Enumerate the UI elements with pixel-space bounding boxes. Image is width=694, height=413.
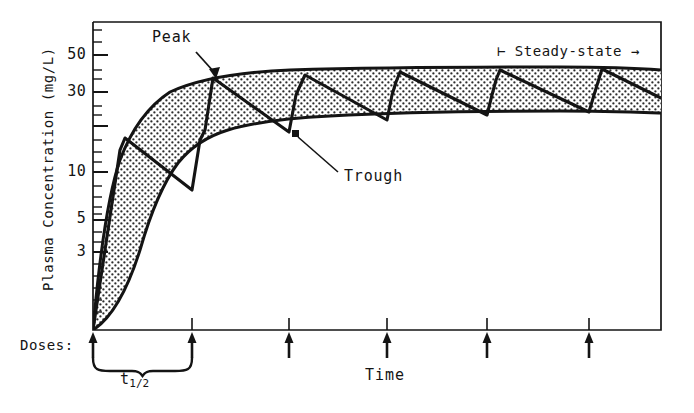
trough-annotation-label: Trough: [344, 169, 403, 184]
peak-leader-arrow: [196, 52, 220, 79]
trough-leader-line: [292, 130, 338, 172]
steady-state-annotation-label: ⊢ Steady-state →: [497, 44, 640, 58]
doses-axis-label: Doses:: [20, 338, 74, 352]
y-tick-label-50: 50: [46, 47, 86, 62]
dose-arrow-3: [285, 332, 294, 358]
dose-arrow-1: [89, 332, 98, 358]
y-tick-label-5: 5: [46, 211, 86, 226]
dose-arrows: [89, 332, 594, 358]
halflife-label: t1/2: [120, 372, 149, 389]
y-tick-label-3: 3: [46, 244, 86, 259]
dose-arrow-5: [483, 332, 492, 358]
peak-annotation-label: Peak: [152, 30, 191, 45]
figure-root: Plasma Concentration (mg/L) 50 30 10 5 3…: [0, 0, 694, 413]
x-axis-title: Time: [365, 368, 405, 383]
dose-arrow-4: [383, 332, 392, 358]
pk-curve-svg: [0, 0, 694, 413]
halflife-symbol: t: [120, 370, 129, 388]
y-tick-label-30: 30: [46, 84, 86, 99]
dose-arrow-2: [188, 332, 197, 358]
y-tick-label-10: 10: [46, 164, 86, 179]
halflife-subscript: 1/2: [129, 377, 149, 390]
x-axis-dose-ticks: [192, 318, 589, 330]
dose-arrow-6: [585, 332, 594, 358]
